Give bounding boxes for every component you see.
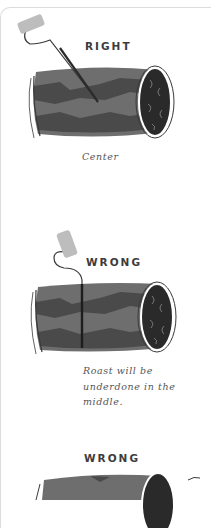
panel-label: WRONG — [84, 452, 140, 464]
